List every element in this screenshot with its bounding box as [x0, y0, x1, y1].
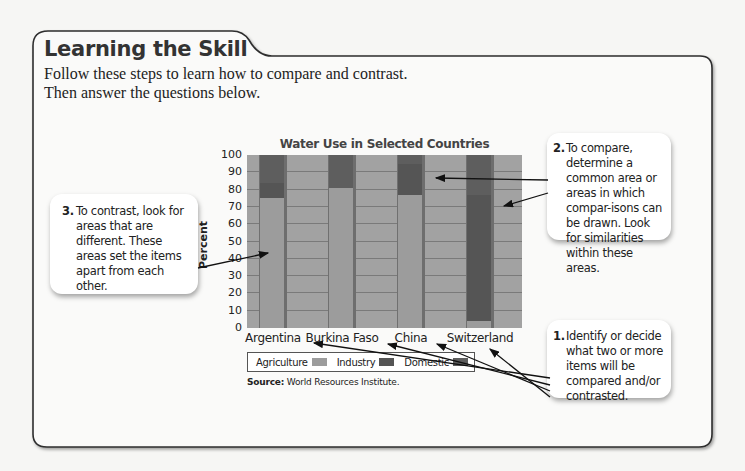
- callout-number: 3.: [62, 204, 74, 219]
- legend-swatch-agriculture: [312, 358, 327, 366]
- bar-segment-domestic: [260, 155, 284, 183]
- y-tick-label: 50: [218, 235, 242, 248]
- bar-segment-domestic: [329, 155, 353, 188]
- y-tick-label: 40: [218, 252, 242, 265]
- callout-number: 1.: [553, 329, 565, 344]
- callout-text: To contrast, look for areas that are dif…: [76, 204, 188, 294]
- y-tick-label: 30: [218, 269, 242, 282]
- callout-text: Identify or decide what two or more item…: [566, 329, 663, 404]
- x-tick-label: Burkina Faso: [306, 331, 379, 345]
- section-title: Learning the Skill: [44, 37, 247, 61]
- intro-text: Follow these steps to learn how to compa…: [44, 64, 407, 102]
- bar-segment-agriculture: [260, 198, 284, 328]
- bar-china: [397, 155, 425, 328]
- bar-switzerland: [466, 155, 494, 328]
- y-tick-label: 20: [218, 286, 242, 299]
- bar-segment-industry: [467, 195, 491, 321]
- legend-label-industry: Industry: [337, 357, 376, 368]
- legend-label-domestic: Domestic: [404, 357, 449, 368]
- legend-swatch-domestic: [453, 358, 468, 366]
- callout-step-1: 1. Identify or decide what two or more i…: [547, 320, 671, 398]
- callout-number: 2.: [553, 141, 565, 156]
- y-tick-label: 100: [218, 148, 242, 161]
- legend-label-agriculture: Agriculture: [256, 357, 308, 368]
- x-tick-label: Argentina: [245, 331, 301, 345]
- callout-step-2: 2. To compare, determine a common area o…: [547, 133, 671, 240]
- x-tick-label: China: [395, 331, 428, 345]
- bar-segment-domestic: [398, 155, 422, 164]
- chart-title: Water Use in Selected Countries: [247, 137, 522, 151]
- source-label: Source:: [247, 377, 284, 387]
- x-tick-label: Switzerland: [447, 331, 514, 345]
- plot-area: [247, 155, 522, 328]
- bar-burkina-faso: [328, 155, 356, 328]
- callout-text: To compare, determine a common area or a…: [566, 141, 663, 276]
- chart-source: Source: World Resources Institute.: [247, 377, 399, 387]
- y-axis-label: Percent: [197, 221, 210, 269]
- callout-step-3: 3. To contrast, look for areas that are …: [50, 194, 198, 294]
- chart-legend: Agriculture Industry Domestic: [247, 352, 475, 372]
- intro-line-1: Follow these steps to learn how to compa…: [44, 64, 407, 83]
- bar-segment-domestic: [467, 155, 491, 195]
- bar-segment-industry: [398, 164, 422, 195]
- bar-segment-agriculture: [467, 321, 491, 328]
- y-tick-label: 60: [218, 217, 242, 230]
- y-tick-label: 70: [218, 200, 242, 213]
- source-text: World Resources Institute.: [287, 377, 400, 387]
- y-tick-label: 10: [218, 304, 242, 317]
- bar-segment-agriculture: [398, 195, 422, 328]
- y-tick-label: 90: [218, 165, 242, 178]
- intro-line-2: Then answer the questions below.: [44, 83, 407, 102]
- y-tick-label: 80: [218, 183, 242, 196]
- bar-argentina: [259, 155, 287, 328]
- legend-swatch-industry: [379, 358, 394, 366]
- bar-segment-agriculture: [329, 188, 353, 328]
- bar-segment-industry: [260, 183, 284, 199]
- y-tick-label: 0: [218, 321, 242, 334]
